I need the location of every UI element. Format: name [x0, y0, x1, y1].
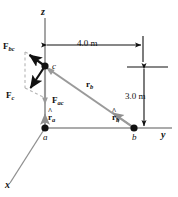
- unit-vector-label-rb-sub: b: [116, 116, 119, 123]
- force-label-fac-sub: ac: [58, 99, 64, 106]
- force-fac-arrowhead: [42, 98, 48, 105]
- unit-vector-label-rb: ^rb: [112, 113, 119, 122]
- point-label-a: a: [43, 133, 48, 142]
- vector-diagram-figure: z y x c a b Fbc Fc Fac rb ^ra ^rb 4.0 m …: [0, 0, 178, 197]
- unit-vector-label-ra: ^ra: [48, 113, 55, 122]
- diagram-canvas: [0, 0, 178, 197]
- force-label-fc-base: F: [6, 90, 12, 100]
- unit-vector-label-ra-sub: a: [52, 116, 55, 123]
- vector-label-rb-sub: b: [90, 83, 93, 90]
- axis-label-y: y: [161, 130, 165, 140]
- point-b-dot: [130, 124, 137, 131]
- axis-label-z: z: [41, 7, 45, 17]
- force-label-fbc-base: F: [3, 41, 9, 51]
- vector-label-rb: rb: [86, 80, 93, 89]
- point-label-b: b: [132, 133, 137, 142]
- axis-label-x: x: [5, 180, 10, 190]
- point-a-dot: [41, 124, 48, 131]
- x-axis-line: [10, 128, 45, 183]
- force-label-fac-base: F: [52, 95, 58, 105]
- dimension-label-vertical: 3.0 m: [125, 92, 146, 101]
- point-label-c: c: [52, 62, 56, 71]
- parallelogram-dashed-bottom: [25, 88, 45, 98]
- hat-icon-ra: ^: [48, 108, 53, 116]
- force-label-fc-sub: c: [12, 94, 15, 101]
- force-label-fbc-sub: bc: [9, 45, 15, 52]
- force-label-fbc: Fbc: [3, 42, 15, 51]
- force-label-fc: Fc: [6, 91, 14, 100]
- point-c-dot: [41, 62, 48, 69]
- force-fc-shaft: [31, 66, 46, 88]
- dimension-label-horizontal: 4.0 m: [77, 39, 98, 48]
- hat-icon-rb: ^: [112, 108, 117, 116]
- force-label-fac: Fac: [52, 96, 64, 105]
